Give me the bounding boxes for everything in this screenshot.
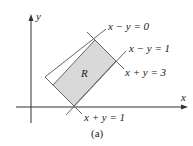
y-axis-label: y xyxy=(35,10,41,22)
region-label: R xyxy=(80,67,88,79)
x-axis-arrow-icon xyxy=(181,105,188,110)
diagram-canvas: y x R x − y = 0 x − y = 1 x + y = 3 x + … xyxy=(0,0,193,146)
label-x-plus-y-1: x + y = 1 xyxy=(83,111,125,123)
label-x-minus-y-0: x − y = 0 xyxy=(107,20,150,32)
label-x-minus-y-1: x − y = 1 xyxy=(128,42,170,54)
x-axis-label: x xyxy=(180,91,186,103)
caption: (a) xyxy=(91,127,104,140)
label-x-plus-y-3: x + y = 3 xyxy=(124,66,167,78)
y-axis-arrow-icon xyxy=(29,14,34,21)
